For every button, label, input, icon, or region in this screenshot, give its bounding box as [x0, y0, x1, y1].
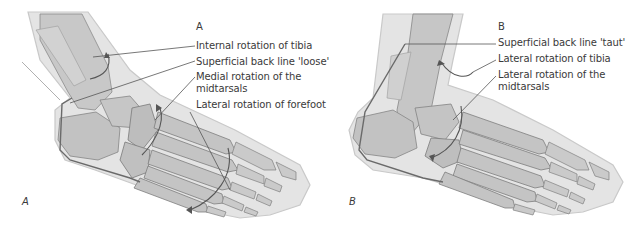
panel-a-heading: A — [196, 21, 203, 32]
label-superficial-back-line-loose: Superficial back line 'loose' — [196, 56, 329, 68]
panel-b: B Superficial back line 'taut' Lateral r… — [313, 0, 626, 236]
foot-illustration-b — [313, 0, 626, 236]
label-lateral-rotation-midtarsals-1: Lateral rotation of the — [498, 69, 605, 81]
label-medial-rotation-midtarsals-1: Medial rotation of the — [196, 71, 301, 83]
label-lateral-rotation-tibia: Lateral rotation of tibia — [498, 53, 611, 65]
label-lateral-rotation-forefoot: Lateral rotation of forefoot — [196, 99, 326, 111]
foot-illustration-a — [0, 0, 313, 236]
panel-b-corner-label: B — [349, 196, 356, 207]
panel-a: A Internal rotation of tibia Superficial… — [0, 0, 313, 236]
label-internal-rotation-tibia: Internal rotation of tibia — [196, 40, 312, 52]
panel-a-corner-label: A — [22, 196, 29, 207]
label-lateral-rotation-midtarsals-2: midtarsals — [498, 81, 549, 93]
panel-b-heading: B — [498, 21, 505, 32]
label-superficial-back-line-taut: Superficial back line 'taut' — [498, 37, 625, 49]
label-medial-rotation-midtarsals-2: midtarsals — [196, 83, 247, 95]
